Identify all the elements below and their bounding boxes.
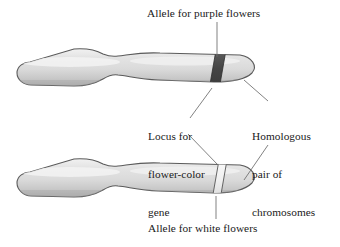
label-locus-line-3: gene (148, 206, 205, 219)
label-allele-purple-flowers: Allele for purple flowers (147, 7, 260, 20)
label-homologous-pair-of-chromosomes: Homologous pair of chromosomes (252, 105, 315, 244)
lower-chromosome (10, 159, 260, 200)
upper-chromosome (10, 49, 260, 90)
label-locus-line-1: Locus for (148, 130, 205, 143)
label-locus-line-2: flower-color (148, 168, 205, 181)
label-homologous-line-2: pair of (252, 168, 315, 181)
leader-homologous-upper (244, 80, 268, 101)
label-homologous-line-3: chromosomes (252, 206, 315, 219)
homologous-chromosome-pair-diagram: Allele for purple flowers Locus for flow… (0, 0, 340, 247)
label-allele-white-flowers: Allele for white flowers (148, 222, 257, 235)
label-homologous-line-1: Homologous (252, 130, 315, 143)
